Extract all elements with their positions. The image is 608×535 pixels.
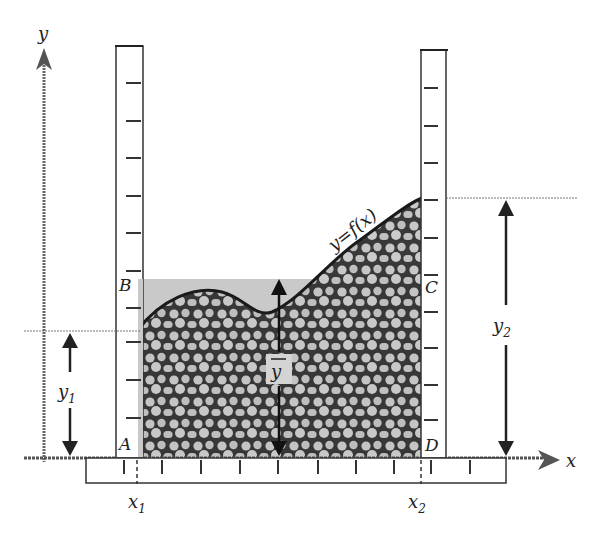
y1-label: y1 [57, 381, 76, 406]
x2-label: x2 [408, 491, 426, 516]
x-axis-label: x [566, 450, 576, 471]
x1-label: x1 [128, 491, 146, 516]
y-axis-label: y [37, 23, 49, 44]
y2-label: y2 [492, 315, 511, 340]
point-c-label: C [425, 277, 438, 297]
left-ruler [115, 46, 143, 458]
point-b-label: B [118, 275, 132, 295]
x-axis-arrowhead-icon [538, 450, 560, 470]
point-d-label: D [424, 435, 439, 455]
right-ruler [420, 50, 448, 458]
y1-arrowhead-up-icon [62, 333, 78, 348]
y1-arrowhead-down-icon [62, 441, 78, 456]
bottom-ruler [86, 458, 506, 484]
ybar-label: y [270, 361, 282, 382]
y2-arrowhead-down-icon [498, 441, 514, 456]
point-a-label: A [117, 434, 131, 454]
mean-value-diagram: y x B A C D [0, 0, 608, 535]
y2-arrowhead-up-icon [498, 200, 514, 216]
